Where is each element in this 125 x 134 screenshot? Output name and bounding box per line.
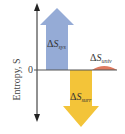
delta-s-sys-label: ΔSsys: [47, 38, 66, 50]
y-axis-up-arrowhead-icon: [34, 3, 40, 11]
zero-tick-label: 0: [28, 64, 33, 75]
y-axis-down-arrowhead-icon: [34, 114, 40, 122]
entropy-diagram: Entropy, S 0 ΔSsys ΔSsurr ΔSuniv: [0, 0, 125, 134]
delta-s-univ-bump: [92, 66, 117, 70]
delta-s-univ-label: ΔSuniv: [90, 52, 112, 64]
delta-s-surr-label: ΔSsurr: [70, 91, 91, 103]
y-axis-label: Entropy, S: [11, 50, 22, 110]
